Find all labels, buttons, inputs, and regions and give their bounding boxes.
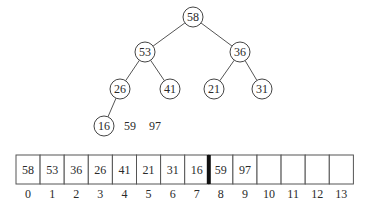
tree-edge [108, 98, 116, 117]
array-index: 13 [335, 187, 347, 201]
tree-nodes: 5853362641213116 [94, 7, 272, 136]
array-cell-value: 26 [94, 163, 106, 177]
node-value: 58 [187, 10, 199, 24]
array-cell [305, 155, 329, 184]
tree-node: 16 [94, 116, 114, 136]
tree-edge [153, 23, 185, 46]
array-index: 3 [97, 187, 103, 201]
node-value: 53 [139, 45, 151, 59]
array-index: 6 [170, 187, 176, 201]
array-cell-value: 31 [167, 163, 179, 177]
unheaped-values: 5997 [124, 119, 161, 133]
tree-edge [126, 60, 140, 80]
node-value: 41 [164, 82, 176, 96]
array-index: 12 [311, 187, 323, 201]
tree-edges [108, 23, 257, 117]
array-cell-value: 58 [22, 163, 34, 177]
tree-node: 41 [160, 79, 180, 99]
array-cell-value: 53 [46, 163, 58, 177]
node-value: 26 [114, 82, 126, 96]
array-cell [281, 155, 305, 184]
array-indices: 012345678910111213 [25, 187, 347, 201]
array-cell-value: 16 [191, 163, 203, 177]
tree-node: 53 [135, 42, 155, 62]
node-value: 21 [208, 82, 220, 96]
tree-edge [245, 61, 257, 81]
node-value: 16 [98, 119, 110, 133]
heap-array: 58533626412131165997 [16, 155, 353, 184]
node-value: 31 [256, 82, 268, 96]
node-value: 36 [234, 45, 246, 59]
tree-edge [151, 60, 165, 80]
tree-node: 58 [183, 7, 203, 27]
tree-node: 26 [110, 79, 130, 99]
array-cell-value: 21 [143, 163, 155, 177]
array-index: 2 [73, 187, 79, 201]
array-index: 8 [218, 187, 224, 201]
array-cell-value: 59 [215, 163, 227, 177]
unheaped-value: 59 [124, 119, 136, 133]
tree-node: 31 [252, 79, 272, 99]
array-index: 0 [25, 187, 31, 201]
unheaped-value: 97 [149, 119, 161, 133]
array-cell-value: 36 [70, 163, 82, 177]
array-index: 10 [263, 187, 275, 201]
array-index: 7 [194, 187, 200, 201]
array-index: 4 [121, 187, 127, 201]
array-cell [257, 155, 281, 184]
array-index: 9 [242, 187, 248, 201]
array-cell [329, 155, 353, 184]
array-cell-value: 97 [239, 163, 251, 177]
heap-diagram: 5853362641213116 5997 585336264121311659… [0, 0, 372, 207]
array-index: 1 [49, 187, 55, 201]
tree-edge [220, 60, 235, 81]
tree-node: 36 [230, 42, 250, 62]
array-cell-value: 41 [118, 163, 130, 177]
array-index: 5 [146, 187, 152, 201]
array-index: 11 [287, 187, 299, 201]
tree-edge [201, 23, 232, 46]
tree-node: 21 [204, 79, 224, 99]
